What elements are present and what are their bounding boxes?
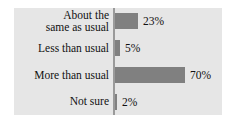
bar-fill bbox=[115, 94, 117, 110]
category-label: More than usual bbox=[14, 62, 113, 89]
bar-value-label: 70% bbox=[190, 69, 211, 81]
plot-panel: About the same as usual 23% Less than us… bbox=[14, 8, 222, 115]
bar-value-label: 2% bbox=[122, 96, 137, 108]
bar-fill bbox=[115, 67, 185, 83]
category-label: Less than usual bbox=[14, 35, 113, 62]
bar-row: More than usual 70% bbox=[14, 62, 222, 89]
category-label: About the same as usual bbox=[14, 8, 113, 35]
bar-chart: About the same as usual 23% Less than us… bbox=[0, 0, 231, 125]
bar-row: Less than usual 5% bbox=[14, 35, 222, 62]
bar-zone: 70% bbox=[115, 62, 222, 89]
bar-row: Not sure 2% bbox=[14, 88, 222, 115]
bar-row: About the same as usual 23% bbox=[14, 8, 222, 35]
bar-rows: About the same as usual 23% Less than us… bbox=[14, 8, 222, 115]
bar-value-label: 23% bbox=[143, 15, 164, 27]
bar-value-label: 5% bbox=[125, 42, 140, 54]
bar-zone: 5% bbox=[115, 35, 222, 62]
bar-zone: 23% bbox=[115, 8, 222, 35]
bar-fill bbox=[115, 13, 138, 29]
category-label: Not sure bbox=[14, 88, 113, 115]
bar-zone: 2% bbox=[115, 88, 222, 115]
bar-fill bbox=[115, 40, 120, 56]
